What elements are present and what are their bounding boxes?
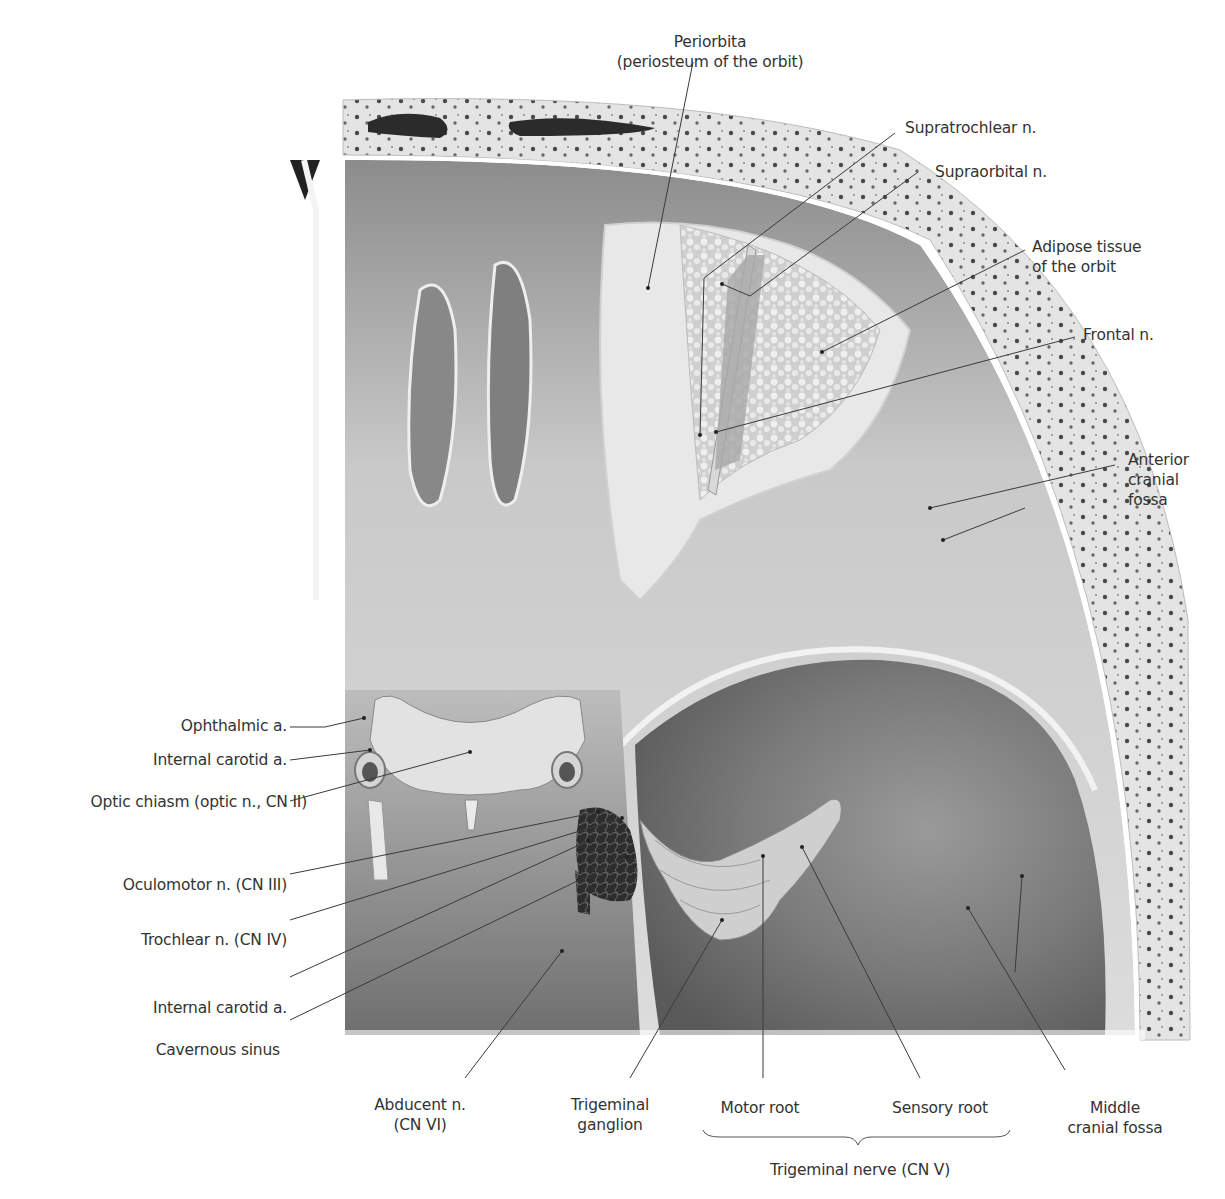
- label-internal-carotid-artery-1: Internal carotid a.: [153, 750, 287, 770]
- label-oculomotor-nerve: Oculomotor n. (CN III): [123, 875, 287, 895]
- crista-galli: [304, 160, 316, 600]
- label-motor-root: Motor root: [700, 1098, 820, 1118]
- label-internal-carotid-artery-2: Internal carotid a.: [153, 998, 287, 1018]
- label-optic-chiasm: Optic chiasm (optic n., CN II): [91, 792, 307, 812]
- anatomy-figure: Periorbita (periosteum of the orbit) Sup…: [0, 0, 1225, 1199]
- label-supraorbital-nerve: Supraorbital n.: [935, 162, 1047, 182]
- label-middle-cranial-fossa: Middle cranial fossa: [1040, 1098, 1190, 1138]
- label-supratrochlear-nerve: Supratrochlear n.: [905, 118, 1036, 138]
- label-ophthalmic-artery: Ophthalmic a.: [181, 716, 287, 736]
- label-trigeminal-ganglion: Trigeminal ganglion: [540, 1095, 680, 1135]
- label-cavernous-sinus: Cavernous sinus: [156, 1040, 280, 1060]
- label-trochlear-nerve: Trochlear n. (CN IV): [141, 930, 287, 950]
- label-sensory-root: Sensory root: [870, 1098, 1010, 1118]
- label-trigeminal-nerve: Trigeminal nerve (CN V): [740, 1160, 980, 1180]
- label-frontal-nerve: Frontal n.: [1083, 325, 1154, 345]
- label-anterior-cranial-fossa: Anterior cranial fossa: [1128, 450, 1189, 510]
- label-periorbita: Periorbita (periosteum of the orbit): [590, 32, 830, 72]
- label-adipose-tissue: Adipose tissue of the orbit: [1032, 237, 1141, 277]
- trigeminal-brace: [703, 1130, 1010, 1145]
- label-abducent-nerve: Abducent n. (CN VI): [360, 1095, 480, 1135]
